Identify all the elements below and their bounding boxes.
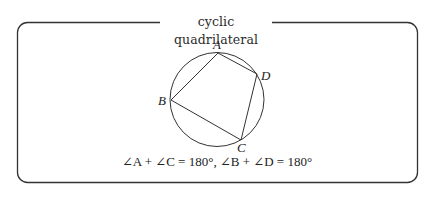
formula-opposite-angles-ac: ∠A + ∠C = 180° bbox=[122, 154, 214, 169]
vertex-label-c: C bbox=[237, 141, 246, 155]
formula-opposite-angles-bd: ∠B + ∠D = 180° bbox=[220, 154, 312, 169]
circumcircle bbox=[170, 53, 264, 147]
vertex-label-b: B bbox=[158, 94, 166, 108]
angle-formula: ∠A + ∠C = 180°, ∠B + ∠D = 180° bbox=[110, 154, 324, 170]
vertex-label-d: D bbox=[261, 69, 270, 83]
frame-title: cyclic quadrilateral bbox=[160, 13, 272, 31]
vertex-label-a: A bbox=[213, 38, 221, 52]
